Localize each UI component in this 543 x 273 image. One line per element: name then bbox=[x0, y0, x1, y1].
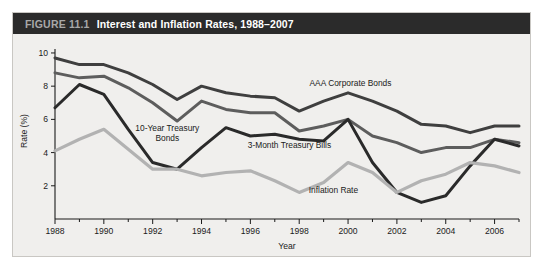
y-axis-title: Rate (%) bbox=[19, 114, 29, 148]
x-tick-label: 1992 bbox=[143, 226, 162, 236]
line-chart: 246810Rate (%)19881990199219941996199820… bbox=[13, 34, 530, 257]
y-tick-label: 2 bbox=[43, 181, 48, 191]
x-tick-label: 1998 bbox=[290, 226, 309, 236]
y-tick-label: 4 bbox=[43, 148, 48, 158]
x-axis-title: Year bbox=[278, 241, 296, 251]
series-label-10-year-treasury-bonds: 10-Year TreasuryBonds bbox=[135, 123, 200, 143]
x-tick-label: 1988 bbox=[45, 226, 64, 236]
y-tick-label: 8 bbox=[43, 81, 48, 91]
chart-plot-area: 246810Rate (%)19881990199219941996199820… bbox=[13, 34, 530, 257]
y-tick-label: 6 bbox=[43, 114, 48, 124]
series-label-inflation-rate: Inflation Rate bbox=[309, 185, 359, 195]
x-tick-label: 1994 bbox=[192, 226, 211, 236]
figure-number-label: FIGURE 11.1 bbox=[25, 18, 90, 30]
y-tick-label: 10 bbox=[38, 48, 48, 58]
figure-card: FIGURE 11.1 Interest and Inflation Rates… bbox=[12, 12, 531, 257]
x-tick-label: 2004 bbox=[436, 226, 455, 236]
series-label-3-month-treasury-bills: 3-Month Treasury Bills bbox=[248, 140, 331, 150]
series-label-aaa-corporate-bonds: AAA Corporate Bonds bbox=[310, 78, 392, 88]
x-tick-label: 2000 bbox=[338, 226, 357, 236]
figure-title-bar: FIGURE 11.1 Interest and Inflation Rates… bbox=[13, 13, 530, 34]
x-tick-label: 1996 bbox=[241, 226, 260, 236]
x-tick-label: 2006 bbox=[485, 226, 504, 236]
chart-series-lines bbox=[55, 58, 519, 202]
figure-root: FIGURE 11.1 Interest and Inflation Rates… bbox=[0, 0, 543, 273]
x-tick-label: 1990 bbox=[94, 226, 113, 236]
x-tick-label: 2002 bbox=[387, 226, 406, 236]
figure-title-text: Interest and Inflation Rates, 1988–2007 bbox=[97, 18, 294, 30]
